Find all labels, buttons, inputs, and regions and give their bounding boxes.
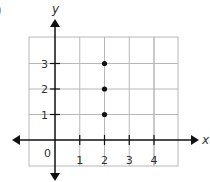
y-axis-label: y [51,2,60,16]
data-point [102,61,107,66]
ticks: 01234123 [41,58,158,168]
coordinate-plane: 01234123 x y [0,0,210,182]
y-axis-down-arrow-icon [50,173,60,181]
x-axis-label: x [201,133,210,147]
x-tick-label: 2 [101,154,108,167]
data-point [102,86,107,91]
y-axis-up-arrow-icon [50,19,60,27]
grid [29,37,178,166]
grid-border [29,37,178,166]
x-tick-label: 3 [126,154,133,167]
x-axis-left-arrow-icon [12,135,20,145]
x-tick-label: 1 [76,154,83,167]
x-axis-right-arrow-icon [191,135,199,145]
y-tick-label: 1 [41,109,48,122]
x-tick-label: 4 [151,154,158,167]
data-point [102,112,107,117]
y-tick-label: 2 [41,83,48,96]
y-tick-label: 3 [41,58,48,71]
x-tick-label-origin: 0 [44,147,51,160]
